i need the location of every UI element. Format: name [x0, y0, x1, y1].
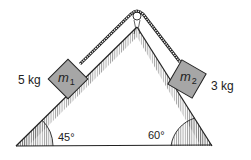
right-angle-label: 60° — [148, 129, 165, 141]
mass-right-label: 3 kg — [211, 79, 234, 93]
left-angle-label: 45° — [58, 131, 75, 143]
mass-left-label: 5 kg — [18, 73, 41, 87]
incline-pulley-diagram: m1 5 kg m2 3 kg 45° 60° — [0, 0, 251, 160]
right-angle-hatch — [171, 118, 212, 146]
